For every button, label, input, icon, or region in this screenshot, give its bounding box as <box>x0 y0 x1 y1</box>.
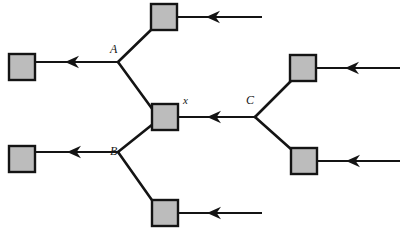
box-center-x <box>152 104 178 130</box>
label-x: x <box>182 94 188 106</box>
box-right-lower <box>291 148 317 174</box>
edge-C-to-right-lower-box <box>255 117 292 150</box>
edge-A-to-top-box <box>118 28 153 62</box>
box-group <box>9 4 317 226</box>
edge-C-to-right-upper-box <box>255 81 291 117</box>
diagram-canvas: ABCx <box>0 0 404 233</box>
label-A: A <box>109 42 118 56</box>
edge-B-to-bottom-box <box>118 152 154 203</box>
box-bottom-center <box>152 200 178 226</box>
box-left-upper <box>9 54 35 80</box>
edge-B-to-center-x <box>118 124 153 152</box>
label-C: C <box>246 93 255 107</box>
box-top-center <box>151 4 177 30</box>
plain-edge-group <box>118 28 292 203</box>
edge-A-to-center-x <box>118 62 153 110</box>
box-left-lower <box>9 146 35 172</box>
label-B: B <box>110 144 118 158</box>
box-right-upper <box>290 55 316 81</box>
tree-diagram-figure: ABCx <box>0 0 404 233</box>
